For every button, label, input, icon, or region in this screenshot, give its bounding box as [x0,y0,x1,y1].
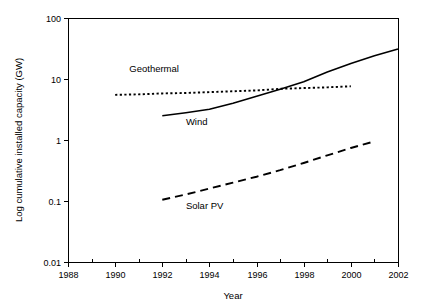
log-capacity-line-chart: 1001010.10.01 19881990199219941996199820… [0,0,426,307]
x-axis-title: Year [223,290,242,301]
y-tick-label: 1 [56,136,61,146]
y-tick-label: 100 [46,14,61,24]
chart-background [0,0,426,307]
x-tick-label: 1994 [199,270,219,280]
chart-container: 1001010.10.01 19881990199219941996199820… [0,0,426,307]
y-tick-label: 10 [51,75,61,85]
series-label-solar-pv: Solar PV [186,200,224,211]
x-tick-label: 1988 [58,270,78,280]
y-axis-title: Log cumulative installed capacity (GW) [13,58,24,222]
series-label-geothermal: Geothermal [129,63,179,74]
y-tick-label: 0.1 [48,197,61,207]
y-tick-label: 0.01 [43,258,61,268]
x-tick-label: 1992 [152,270,172,280]
x-tick-label: 2002 [388,270,408,280]
x-tick-label: 2000 [341,270,361,280]
x-tick-label: 1996 [247,270,267,280]
x-tick-label: 1990 [105,270,125,280]
series-label-wind: Wind [186,116,208,127]
x-tick-label: 1998 [294,270,314,280]
